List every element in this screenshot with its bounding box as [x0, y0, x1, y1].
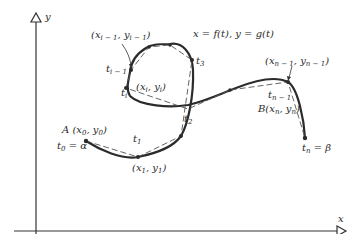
- a-coord-text: (x: [72, 124, 82, 135]
- equation-label: x = f(t), y = g(t): [193, 28, 274, 39]
- label-p1-coord: (x1, y1): [132, 162, 167, 175]
- y-axis-arrow-icon: [31, 13, 41, 22]
- label-pi-coord: (xi, yi): [136, 81, 166, 94]
- label-a-coord: A (x0, y0): [61, 124, 107, 137]
- x-axis-arrow-icon: [337, 226, 346, 234]
- point-top-left: [147, 45, 151, 49]
- point-b: [303, 136, 307, 140]
- x-axis-label: x: [338, 213, 344, 224]
- parametric-curve-diagram: y x x = f(t), y = g(t) A (x0, y0) t0 = α…: [0, 0, 350, 234]
- pointer-arrow-i-minus-1: [122, 44, 131, 66]
- label-t1: t1: [133, 133, 142, 146]
- point-3: [190, 58, 194, 62]
- label-t3: t3: [196, 55, 205, 68]
- label-pnm1-coord: (xn − 1, yn − 1): [265, 55, 329, 68]
- label-tn-beta: tn = β: [302, 142, 331, 155]
- y-axis-label: y: [44, 11, 51, 22]
- label-pim1-coord: (xi − 1, yi − 1): [91, 29, 151, 42]
- label-tn-minus-1: tn − 1: [268, 89, 291, 102]
- label-b-coord: B(xn, yn): [257, 103, 300, 116]
- point-1: [136, 155, 140, 159]
- point-mid: [228, 88, 232, 92]
- point-top-right: [168, 43, 172, 47]
- label-t0-alpha: t0 = α: [57, 140, 87, 153]
- point-2: [179, 134, 183, 138]
- label-ti-minus-1: ti − 1: [106, 63, 127, 76]
